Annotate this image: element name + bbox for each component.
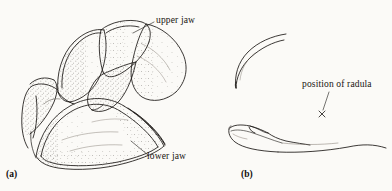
- panel-tag-b: (b): [241, 170, 253, 180]
- upper-beak-outer-curve: [236, 34, 287, 88]
- radula-cross-marker: [319, 111, 325, 117]
- upper-beak-inner-curve: [236, 40, 284, 88]
- figure-linework: [0, 0, 392, 191]
- label-lower-jaw: lower jaw: [147, 152, 186, 162]
- panel-tag-a: (a): [6, 170, 17, 180]
- lower-beak-wing: [278, 145, 386, 152]
- panel-b-beak-drawing: [229, 34, 386, 152]
- label-position-of-radula: position of radula: [302, 80, 372, 90]
- beak-figure: upper jaw lower jaw position of radula (…: [0, 0, 392, 191]
- label-upper-jaw: upper jaw: [156, 16, 195, 26]
- radula-leader: [323, 92, 329, 110]
